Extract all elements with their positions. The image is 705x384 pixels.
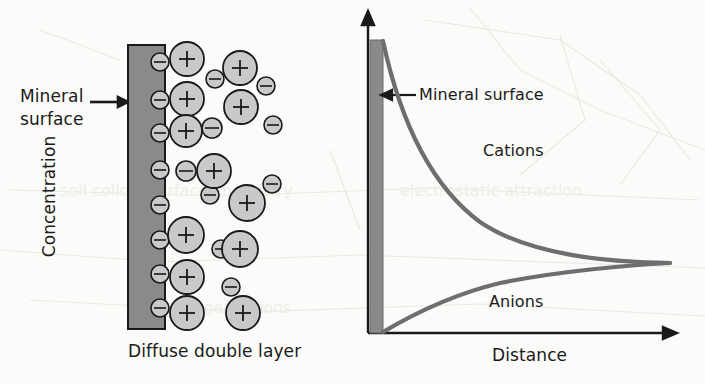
mineral-surface-label-right: Mineral surface [419, 87, 544, 103]
x-axis-arrow-icon [663, 327, 677, 339]
x-axis-label: Distance [492, 347, 567, 364]
anions-curve-label: Anions [489, 294, 543, 310]
right-plot-graphics [0, 0, 705, 384]
plot-axes [362, 11, 677, 339]
diffuse-double-layer-caption: Diffuse double layer [128, 343, 301, 360]
mineral-surface-label-left-line1: Mineral [20, 86, 83, 106]
plot-mineral-surface-bar [370, 40, 383, 333]
y-axis-label: Concentration [41, 117, 58, 277]
figure-canvas: soil colloid surface chemistry electrost… [0, 0, 705, 384]
y-axis-arrow-icon [362, 11, 374, 25]
cations-curve-label: Cations [483, 143, 544, 159]
